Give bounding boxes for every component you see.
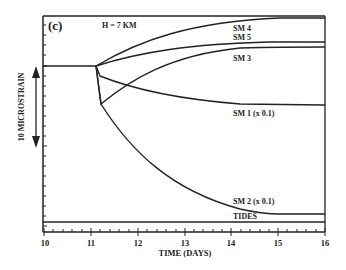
x-tick-10: 10 (41, 238, 50, 248)
label-sm1: SM 1 (x 0.1) (233, 109, 275, 118)
label-sm5: SM 5 (233, 33, 251, 42)
series-sm1 (96, 66, 325, 105)
panel-label: (c) (48, 18, 62, 33)
x-tick-labels: 10 11 12 13 14 15 16 (41, 238, 330, 248)
x-tick-16: 16 (321, 238, 330, 248)
strain-chart: (c) H = 7 KM SM 4 SM 5 SM 3 SM 1 (x 0.1)… (0, 0, 346, 270)
curves (43, 18, 325, 222)
label-sm2: SM 2 (x 0.1) (233, 197, 275, 206)
series-sm3 (96, 47, 325, 104)
depth-annotation: H = 7 KM (102, 21, 137, 30)
x-tick-12: 12 (134, 238, 143, 248)
x-tick-11: 11 (87, 238, 95, 248)
y-axis-ticks (43, 25, 47, 226)
series-sm5 (96, 42, 325, 66)
scale-bar-arrow (32, 66, 40, 148)
label-sm3: SM 3 (233, 54, 251, 63)
x-tick-14: 14 (227, 238, 236, 248)
x-tick-15: 15 (274, 238, 283, 248)
label-tides: TIDES (233, 212, 258, 221)
y-axis-title: 10 MICROSTRAIN (17, 72, 26, 141)
label-sm4: SM 4 (233, 24, 251, 33)
series-sm2 (96, 66, 325, 214)
x-tick-13: 13 (181, 238, 190, 248)
plot-frame (43, 16, 325, 232)
x-axis-title: TIME (DAYS) (159, 248, 212, 258)
